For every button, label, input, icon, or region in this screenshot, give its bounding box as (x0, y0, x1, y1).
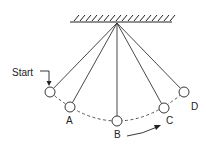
start-arrowhead-icon (47, 81, 52, 86)
ceiling-hatch (152, 15, 157, 21)
ceiling-hatch (110, 15, 115, 21)
ceiling-hatch (92, 15, 97, 21)
ceiling-hatch (170, 15, 175, 21)
ceiling (70, 15, 175, 22)
label-C: C (166, 115, 173, 126)
ceiling-hatch (158, 15, 163, 21)
ceiling-hatch (146, 15, 151, 21)
string-A (72, 23, 117, 103)
pendulum-diagram: Start ABCD (0, 0, 206, 147)
ceiling-hatch (80, 15, 85, 21)
motion-arrow-icon (127, 127, 157, 136)
bob-D (179, 87, 189, 97)
motion-arrowhead-icon (154, 125, 161, 130)
bob-B (112, 116, 122, 126)
ceiling-hatch (164, 15, 169, 21)
bob-start (45, 87, 55, 97)
ceiling-hatch (74, 15, 79, 21)
string-D (117, 23, 181, 88)
string-C (117, 23, 162, 104)
bob-A (65, 102, 75, 112)
bob-C (159, 103, 169, 113)
ceiling-hatch (134, 15, 139, 21)
start-label: Start (12, 67, 33, 78)
label-D: D (191, 101, 198, 112)
ceiling-hatch (98, 15, 103, 21)
ceiling-hatch (104, 15, 109, 21)
string-start (53, 23, 117, 88)
pendulum-strings (53, 23, 180, 116)
ceiling-hatch (116, 15, 121, 21)
ceiling-hatch (86, 15, 91, 21)
label-B: B (114, 129, 121, 140)
ceiling-hatch (140, 15, 145, 21)
label-A: A (66, 115, 73, 126)
ceiling-hatch (122, 15, 127, 21)
ceiling-hatch (128, 15, 133, 21)
